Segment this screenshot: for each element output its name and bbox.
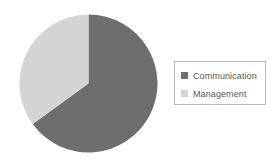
pie-svg: [19, 14, 158, 153]
pie-plot-area: [19, 14, 158, 153]
legend-item-label: Management: [193, 89, 247, 99]
legend-item-communication[interactable]: Communication: [181, 67, 265, 84]
legend-item-management[interactable]: Management: [181, 85, 265, 102]
legend-item-label: Communication: [193, 71, 257, 81]
chart-legend: Communication Management: [174, 61, 266, 105]
pie-chart: Communication Management: [0, 0, 277, 166]
legend-swatch-icon: [181, 72, 188, 79]
legend-swatch-icon: [181, 90, 188, 97]
